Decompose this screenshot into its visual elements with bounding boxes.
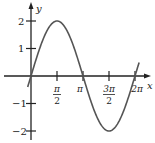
y-axis-arrow-icon [29,2,34,9]
y-tick-label-2: 2 [18,16,24,27]
x-tick-label-pi: π [76,84,84,94]
y-axis-label: y [35,3,42,14]
x-axis-arrow-icon [144,74,151,79]
x-tick-label-3pi-over-2-num: 3π [103,84,116,94]
y-tick-label-m1: −1 [12,98,27,109]
y-tick-label-m2: −2 [12,126,27,137]
x-axis-label: x [147,80,153,91]
x-tick-label-pi-over-2-num: π [53,84,61,94]
sine-chart: y x 2 1 −1 −2 π 2 π 3π 2 2π [0,0,155,143]
x-tick-label-3pi-over-2-den: 2 [106,96,112,106]
x-tick-label-pi-over-2-den: 2 [54,96,60,106]
y-tick-label-1: 1 [18,43,24,54]
